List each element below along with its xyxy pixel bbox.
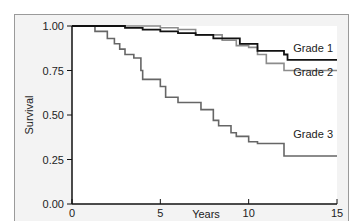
x-axis-title: Years [192,208,220,220]
x-tick-label: 0 [69,207,75,219]
legend-grade-2: Grade 2 [293,66,333,78]
legend-grade-1: Grade 1 [293,42,333,54]
legend-grade-3: Grade 3 [293,128,333,140]
y-tick-label: 0.75 [43,65,64,77]
y-tick-label: 1.00 [43,20,64,32]
y-tick-label: 0.50 [43,109,64,121]
y-tick-label: 0.00 [43,198,64,210]
y-ticks: 0.000.250.500.751.00 [43,20,72,210]
survival-chart: 0.000.250.500.751.00 051015 Years Surviv… [0,0,364,221]
x-tick-label: 15 [331,207,343,219]
y-tick-label: 0.25 [43,154,64,166]
x-tick-label: 10 [243,207,255,219]
y-axis-title: Survival [23,95,35,134]
x-tick-label: 5 [157,207,163,219]
